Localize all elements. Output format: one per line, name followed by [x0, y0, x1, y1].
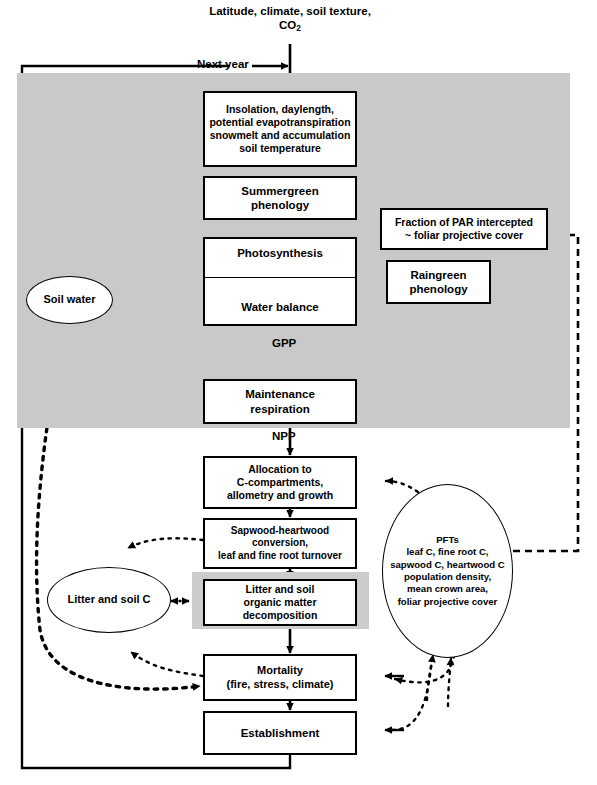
fpar-line-2: ~ foliar projective cover: [405, 229, 523, 242]
insolation-line-3: snowmelt and accumulation: [210, 129, 351, 142]
node-maintenance-respiration[interactable]: Maintenance respiration: [203, 379, 357, 424]
insolation-line-1: Insolation, daylength,: [226, 103, 334, 116]
soil-water-label: Soil water: [44, 293, 96, 306]
gpp-label: GPP: [272, 337, 296, 349]
driver-line-1: Latitude, climate,: [209, 5, 303, 17]
sapwood-line-2: conversion,: [252, 537, 308, 549]
decomp-line-1: Litter and soil: [246, 583, 315, 596]
sapwood-line-3: leaf and fine root turnover: [218, 550, 342, 562]
node-water-balance[interactable]: Water balance: [203, 278, 357, 326]
water-balance-label: Water balance: [241, 300, 319, 314]
next-year-label: Next year: [197, 58, 249, 70]
node-litter-soil-decomposition[interactable]: Litter and soil organic matter decomposi…: [203, 579, 357, 626]
pfts-line-1: PFTs: [436, 534, 459, 546]
node-raingreen-phenology[interactable]: Raingreen phenology: [386, 260, 491, 304]
npp-label: NPP: [272, 430, 296, 442]
driver-inputs-text: Latitude, climate, soil texture, CO2: [205, 4, 375, 35]
decomp-line-2: organic matter: [244, 596, 317, 609]
maintenance-line-1: Maintenance: [245, 387, 315, 401]
pfts-line-6: foliar projective cover: [398, 596, 498, 608]
establishment-label: Establishment: [241, 726, 320, 740]
raingreen-line-2: phenology: [409, 282, 467, 296]
node-photosynthesis[interactable]: Photosynthesis: [203, 237, 357, 278]
node-establishment[interactable]: Establishment: [203, 711, 357, 755]
raingreen-line-1: Raingreen: [410, 268, 466, 282]
insolation-line-2: potential evapotranspiration: [209, 116, 350, 129]
pfts-line-5: mean crown area,: [407, 583, 488, 595]
node-soil-water[interactable]: Soil water: [26, 276, 113, 324]
summergreen-line-1: Summergreen: [241, 184, 318, 198]
pfts-line-3: sapwood C, heartwood C: [390, 559, 505, 571]
node-fraction-par-intercepted[interactable]: Fraction of PAR intercepted ~ foliar pro…: [380, 208, 548, 250]
summergreen-line-2: phenology: [251, 198, 309, 212]
pfts-line-2: leaf C, fine root C,: [406, 546, 488, 558]
maintenance-line-2: respiration: [250, 402, 309, 416]
node-pfts[interactable]: PFTs leaf C, fine root C, sapwood C, hea…: [382, 484, 513, 658]
node-mortality[interactable]: Mortality (fire, stress, climate): [203, 654, 357, 701]
mortality-line-1: Mortality: [257, 664, 303, 677]
node-sapwood-heartwood-conversion[interactable]: Sapwood-heartwood conversion, leaf and f…: [203, 518, 357, 569]
insolation-line-4: soil temperature: [239, 142, 321, 155]
node-insolation[interactable]: Insolation, daylength, potential evapotr…: [203, 91, 357, 167]
fpar-line-1: Fraction of PAR intercepted: [395, 216, 533, 229]
photosynthesis-label: Photosynthesis: [237, 246, 323, 260]
node-allocation[interactable]: Allocation to C-compartments, allometry …: [203, 456, 357, 509]
flowchart-canvas: Latitude, climate, soil texture, CO2 Nex…: [0, 0, 597, 785]
sapwood-line-1: Sapwood-heartwood: [231, 525, 329, 537]
node-litter-and-soil-c[interactable]: Litter and soil C: [47, 567, 171, 633]
node-summergreen-phenology[interactable]: Summergreen phenology: [203, 176, 357, 220]
mortality-line-2: (fire, stress, climate): [227, 678, 334, 691]
allocation-line-3: allometry and growth: [227, 489, 333, 502]
allocation-line-1: Allocation to: [248, 463, 312, 476]
allocation-line-2: C-compartments,: [237, 476, 323, 489]
pfts-line-4: population density,: [404, 571, 491, 583]
decomp-line-3: decomposition: [243, 609, 318, 622]
litter-soil-c-label: Litter and soil C: [67, 593, 150, 606]
